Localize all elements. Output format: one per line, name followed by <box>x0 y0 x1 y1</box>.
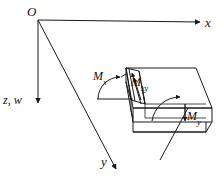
moment-my-indicator <box>152 97 188 160</box>
moment-my-label: My <box>187 110 201 126</box>
moment-mxy-label: Mxy <box>131 76 148 92</box>
moment-my-subscript: y <box>197 118 201 127</box>
mx-axis-tick <box>121 74 126 77</box>
moment-mx-label: Mx <box>93 70 107 86</box>
y-axis-label: y <box>101 155 107 168</box>
moment-my-base: M <box>187 109 197 123</box>
z-axis-label: z, w <box>3 94 22 106</box>
moment-mx-subscript: x <box>103 78 107 87</box>
y-axis <box>38 20 116 169</box>
moment-mx-base: M <box>93 69 103 83</box>
plate-moment-diagram: O x z, w y Mx Mxy My <box>0 0 224 178</box>
moment-mxy-base: M <box>131 75 141 89</box>
x-axis-label: x <box>205 16 211 29</box>
my-leader-line <box>160 108 188 160</box>
coordinate-axes <box>38 20 200 169</box>
my-curved-arrow <box>152 97 180 121</box>
x-axis <box>38 20 200 22</box>
diagram-vector-canvas <box>0 0 224 178</box>
moment-mxy-subscript: xy <box>141 84 148 93</box>
origin-label: O <box>27 5 36 18</box>
